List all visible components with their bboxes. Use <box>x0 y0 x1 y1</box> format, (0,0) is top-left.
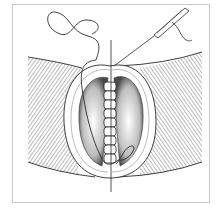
illustration-canvas <box>0 0 221 208</box>
suture-illustration <box>0 0 221 208</box>
running-suture-chain <box>104 82 116 163</box>
